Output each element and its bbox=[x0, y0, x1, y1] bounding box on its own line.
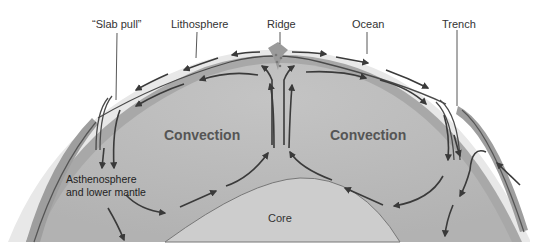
source-credit: Source: Bill Ober bbox=[0, 140, 1, 200]
convection-diagram: “Slab pull” Lithosphere Ridge Ocean Tren… bbox=[0, 0, 536, 249]
label-ocean: Ocean bbox=[352, 18, 384, 30]
label-convection-left: Convection bbox=[164, 127, 240, 143]
label-lithosphere: Lithosphere bbox=[171, 18, 229, 30]
label-slab-pull: “Slab pull” bbox=[92, 18, 142, 30]
label-mantle: Asthenosphere and lower mantle bbox=[66, 173, 146, 199]
label-ridge: Ridge bbox=[267, 18, 296, 30]
label-trench: Trench bbox=[442, 18, 476, 30]
label-core: Core bbox=[268, 212, 292, 224]
label-convection-right: Convection bbox=[330, 127, 406, 143]
